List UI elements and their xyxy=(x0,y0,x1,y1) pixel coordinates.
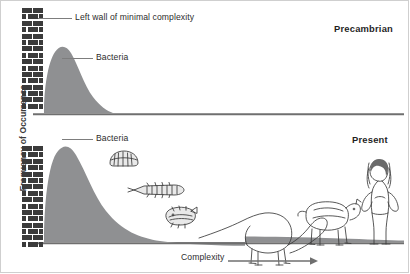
era-label-precambrian: Precambrian xyxy=(334,23,393,34)
bacteria-leader-line-precambrian xyxy=(62,58,93,59)
fish-icon xyxy=(166,206,197,228)
evolution-complexity-figure: Frequency of Occurrence Left wall of min… xyxy=(0,0,410,274)
x-axis-label: Complexity xyxy=(181,252,225,262)
human-icon xyxy=(362,159,399,244)
trilobite-icon xyxy=(110,151,138,166)
arthropod-icon xyxy=(128,182,184,197)
bacteria-annotation-label-present: Bacteria xyxy=(96,133,128,143)
right-arrow-icon xyxy=(228,256,320,266)
left-wall-annotation-label: Left wall of minimal complexity xyxy=(75,12,194,22)
bacteria-annotation-label-precambrian: Bacteria xyxy=(96,52,128,62)
era-label-present: Present xyxy=(352,134,388,145)
left-wall-brick-icon-present xyxy=(22,146,43,248)
present-distribution-curve xyxy=(44,146,404,245)
left-wall-brick-icon xyxy=(22,8,43,110)
bacteria-leader-line-present xyxy=(62,139,93,140)
left-wall-leader-line xyxy=(38,18,72,19)
